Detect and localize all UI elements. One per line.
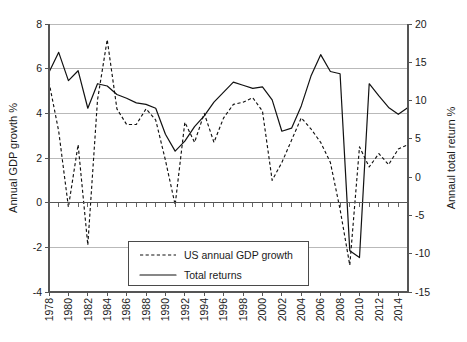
- y-left-tick-label--4: -4: [33, 286, 42, 298]
- y-left-tick-label--2: -2: [33, 241, 42, 253]
- y-right-tick-label-20: 20: [415, 18, 427, 30]
- y-right-tick-label--10: -10: [415, 247, 430, 259]
- y-axis-left-title: Annual GDP growth %: [7, 103, 19, 213]
- x-tick-label-2010: 2010: [353, 298, 365, 322]
- x-tick-label-2012: 2012: [373, 298, 385, 322]
- x-tick-label-1984: 1984: [101, 298, 113, 322]
- x-tick-label-1990: 1990: [159, 298, 171, 322]
- x-tick-label-1986: 1986: [120, 298, 132, 322]
- x-tick-label-2000: 2000: [256, 298, 268, 322]
- x-tick-label-1998: 1998: [237, 298, 249, 322]
- y-right-tick-label--5: -5: [415, 209, 424, 221]
- y-left-tick-label-6: 6: [36, 62, 42, 74]
- x-tick-label-1978: 1978: [43, 298, 55, 322]
- chart-background: [0, 0, 467, 342]
- legend-label: US annual GDP growth: [184, 249, 293, 261]
- chart-container: 1978198019821984198619881990199219941996…: [0, 0, 467, 342]
- x-tick-label-2014: 2014: [392, 298, 404, 322]
- y-right-tick-label-0: 0: [415, 171, 421, 183]
- y-right-tick-label-10: 10: [415, 94, 427, 106]
- legend-label: Total returns: [184, 269, 242, 281]
- x-tick-label-2006: 2006: [314, 298, 326, 322]
- x-tick-label-1992: 1992: [179, 298, 191, 322]
- x-tick-label-1996: 1996: [217, 298, 229, 322]
- x-tick-label-1988: 1988: [140, 298, 152, 322]
- x-tick-label-1994: 1994: [198, 298, 210, 322]
- chart-legend: US annual GDP growthTotal returns: [128, 241, 308, 285]
- y-left-tick-label-8: 8: [36, 18, 42, 30]
- gdp-vs-total-returns-chart: 1978198019821984198619881990199219941996…: [0, 0, 467, 342]
- y-axis-right-title: Annaul total return %: [445, 106, 457, 209]
- y-right-tick-label-15: 15: [415, 56, 427, 68]
- y-right-tick-label-5: 5: [415, 132, 421, 144]
- x-tick-label-1982: 1982: [82, 298, 94, 322]
- y-left-tick-label-4: 4: [36, 107, 42, 119]
- x-tick-label-1980: 1980: [62, 298, 74, 322]
- y-left-tick-label-0: 0: [36, 196, 42, 208]
- x-tick-label-2008: 2008: [334, 298, 346, 322]
- x-tick-label-2004: 2004: [295, 298, 307, 322]
- y-right-tick-label--15: -15: [415, 286, 430, 298]
- x-tick-label-2002: 2002: [276, 298, 288, 322]
- y-left-tick-label-2: 2: [36, 152, 42, 164]
